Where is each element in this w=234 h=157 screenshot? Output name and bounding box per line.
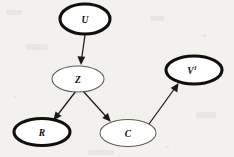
node-z-label: Z (74, 75, 81, 85)
edge-u-to-z (77, 35, 85, 65)
edge-z-to-c-line (83, 91, 107, 117)
graph-canvas: U Z V1 R C (0, 0, 234, 157)
edge-c-to-v1-arrowhead (171, 83, 179, 92)
edge-c-to-v1-line (149, 88, 175, 124)
node-u[interactable]: U (60, 4, 110, 34)
node-group: U Z V1 R C (14, 4, 222, 147)
node-u-label: U (82, 15, 90, 25)
edge-u-to-z-line (82, 35, 85, 59)
node-v1[interactable]: V1 (166, 56, 222, 84)
edge-z-to-r (53, 91, 76, 121)
node-c-label: C (125, 129, 132, 139)
edge-c-to-v1 (149, 83, 179, 124)
node-r[interactable]: R (14, 119, 70, 146)
node-c[interactable]: C (100, 120, 156, 147)
edge-z-to-c (83, 91, 111, 122)
edge-u-to-z-arrowhead (77, 56, 85, 65)
node-r-label: R (38, 128, 45, 138)
node-v1-label-superscript: 1 (194, 64, 197, 71)
edge-z-to-r-line (58, 91, 77, 115)
node-z[interactable]: Z (52, 66, 104, 92)
causal-graph-figure: U Z V1 R C (0, 0, 234, 157)
